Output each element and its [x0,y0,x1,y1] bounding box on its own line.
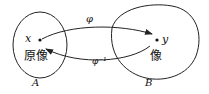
phi-arrow [42,27,152,39]
label-preimage: 原像 [24,50,48,62]
set-b-shape [111,5,199,79]
label-set-b: B [145,78,152,88]
point-y [155,38,158,41]
label-image: 像 [150,50,162,62]
label-y: y [162,34,168,45]
point-x [38,38,41,41]
mapping-diagram: x 原像 y 像 φ φ⁻¹ A B [0,0,209,94]
label-phi: φ [86,14,93,24]
label-phi-inverse: φ⁻¹ [92,57,107,66]
label-set-a: A [32,78,39,88]
set-a-shape [13,12,67,78]
label-x: x [25,33,31,44]
